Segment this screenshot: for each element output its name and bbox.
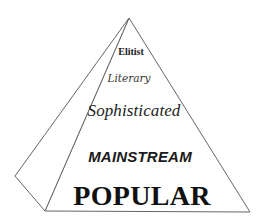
pyramid-diagram: Elitist Literary Sophisticated MAINSTREA… xyxy=(0,0,264,224)
tier-label-elitist: Elitist xyxy=(118,47,144,57)
tier-label-sophisticated: Sophisticated xyxy=(88,102,181,119)
tier-label-mainstream: MAINSTREAM xyxy=(88,149,192,164)
tier-label-popular: POPULAR xyxy=(73,182,210,210)
tier-label-literary: Literary xyxy=(108,73,151,84)
